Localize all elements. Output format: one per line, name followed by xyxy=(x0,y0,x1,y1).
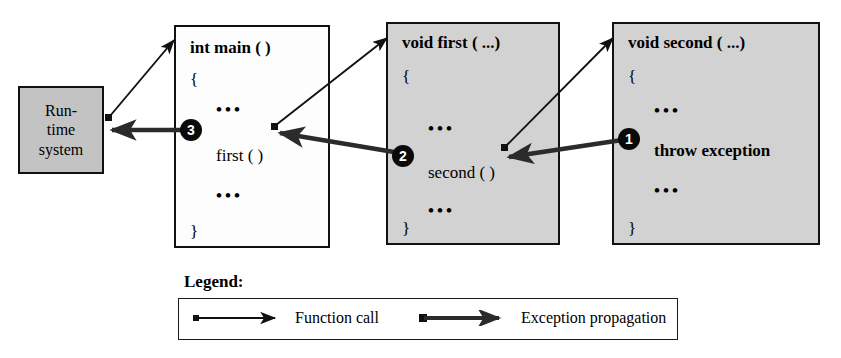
second-statement: throw exception xyxy=(654,142,770,159)
first-ellipsis-top: ••• xyxy=(428,120,455,137)
runtime-line-2: time xyxy=(47,120,75,140)
step-marker-2: 2 xyxy=(392,145,414,167)
main-statement: first ( ) xyxy=(216,147,263,164)
first-statement: second ( ) xyxy=(428,164,495,181)
exception-propagation-diagram: Run- time system int main ( ) { ••• firs… xyxy=(0,0,841,358)
first-close-brace: } xyxy=(402,220,410,237)
arrow-call-runtime-to-main xyxy=(105,40,174,121)
legend-entry-exception-propagation: Exception propagation xyxy=(419,309,666,327)
runtime-system-box: Run- time system xyxy=(18,86,104,174)
first-open-brace: { xyxy=(402,68,410,85)
exception-propagation-arrow-icon xyxy=(419,310,511,326)
first-ellipsis-bottom: ••• xyxy=(428,202,455,219)
function-call-arrow-icon xyxy=(193,310,285,326)
legend-title: Legend: xyxy=(184,272,244,292)
second-ellipsis-top: ••• xyxy=(654,102,681,119)
step-marker-3: 3 xyxy=(180,119,202,141)
second-signature: void second ( ...) xyxy=(628,34,745,51)
second-ellipsis-bottom: ••• xyxy=(654,182,681,199)
code-box-second: void second ( ...) { ••• throw exception… xyxy=(612,22,820,245)
runtime-line-1: Run- xyxy=(45,101,77,121)
main-ellipsis-bottom: ••• xyxy=(216,187,243,204)
legend-box: Function call Exception propagation xyxy=(178,298,678,340)
second-open-brace: { xyxy=(628,68,636,85)
main-signature: int main ( ) xyxy=(190,39,271,56)
legend-label-exception-propagation: Exception propagation xyxy=(521,309,666,327)
main-open-brace: { xyxy=(190,71,198,88)
first-signature: void first ( ...) xyxy=(402,34,500,51)
legend-label-function-call: Function call xyxy=(295,309,379,327)
code-box-first: void first ( ...) { ••• second ( ) ••• } xyxy=(386,22,560,245)
main-ellipsis-top: ••• xyxy=(216,101,243,118)
legend-entry-function-call: Function call xyxy=(193,309,379,327)
runtime-line-3: system xyxy=(39,140,83,160)
main-close-brace: } xyxy=(190,223,198,240)
step-marker-1: 1 xyxy=(618,128,640,150)
second-close-brace: } xyxy=(628,220,636,237)
